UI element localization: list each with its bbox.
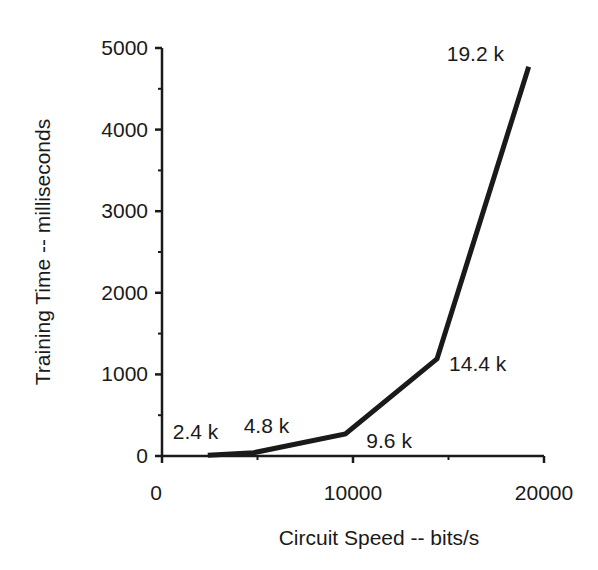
line-chart: 010002000300040005000 01000020000 2.4 k4… bbox=[0, 0, 598, 570]
point-label: 19.2 k bbox=[447, 42, 505, 65]
x-tick-label: 0 bbox=[150, 481, 162, 504]
y-tick-label: 4000 bbox=[101, 118, 148, 141]
x-tick-label: 20000 bbox=[515, 481, 573, 504]
point-label: 14.4 k bbox=[449, 352, 507, 375]
y-tick-label: 1000 bbox=[101, 362, 148, 385]
y-axis: 010002000300040005000 bbox=[101, 36, 162, 467]
series-line bbox=[208, 67, 529, 455]
x-tick-label: 10000 bbox=[324, 481, 382, 504]
x-axis-title: Circuit Speed -- bits/s bbox=[279, 526, 480, 549]
series-layer bbox=[208, 67, 529, 455]
point-label: 9.6 k bbox=[366, 429, 412, 452]
point-label: 2.4 k bbox=[173, 420, 219, 443]
x-axis: 01000020000 bbox=[150, 456, 573, 504]
y-tick-label: 2000 bbox=[101, 281, 148, 304]
y-tick-label: 5000 bbox=[101, 36, 148, 59]
point-labels: 2.4 k4.8 k9.6 k14.4 k19.2 k bbox=[173, 42, 507, 452]
point-label: 4.8 k bbox=[244, 414, 290, 437]
y-tick-label: 0 bbox=[136, 444, 148, 467]
y-axis-title: Training Time -- milliseconds bbox=[31, 119, 54, 385]
y-tick-label: 3000 bbox=[101, 199, 148, 222]
